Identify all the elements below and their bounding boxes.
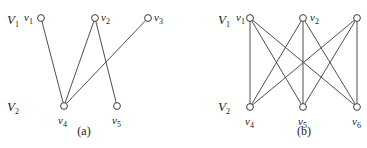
set-label-V2: V2 xyxy=(7,99,19,116)
vertex-v3 xyxy=(145,15,152,22)
vertex-v2 xyxy=(300,15,307,22)
vertex-v5 xyxy=(114,103,121,110)
vertex-v3 xyxy=(354,15,361,22)
vertex-v4 xyxy=(61,103,68,110)
vertex-label-v3: v3 xyxy=(154,11,163,26)
set-label-V1: V1 xyxy=(218,12,230,29)
graph-a: v1v2v3v4v5V1V2(a) xyxy=(7,11,163,138)
vertex-label-v5: v5 xyxy=(112,114,121,129)
vertex-label-v4: v4 xyxy=(58,114,67,129)
caption-b: (b) xyxy=(297,124,311,138)
vertex-label-v2: v2 xyxy=(310,11,319,26)
edge-v1-v4 xyxy=(41,18,64,106)
edges xyxy=(250,18,357,107)
set-label-V1: V1 xyxy=(7,12,19,29)
vertex-v5 xyxy=(300,104,307,111)
vertex-label-v2: v2 xyxy=(101,11,110,26)
bipartite-graphs-figure: v1v2v3v4v5V1V2(a)v1v2v4v5v6V1V2(b) xyxy=(0,0,367,148)
vertex-label-v1: v1 xyxy=(236,11,245,26)
vertex-v1 xyxy=(247,15,254,22)
vertex-label-v4: v4 xyxy=(245,115,254,130)
vertex-label-v6: v6 xyxy=(352,115,361,130)
vertex-v4 xyxy=(247,104,254,111)
vertex-v1 xyxy=(38,15,45,22)
caption-a: (a) xyxy=(77,124,90,138)
edge-v3-v4 xyxy=(64,18,148,106)
edges xyxy=(41,18,148,106)
vertex-label-v1: v1 xyxy=(24,11,33,26)
vertex-v6 xyxy=(354,104,361,111)
set-label-V2: V2 xyxy=(218,99,230,116)
graph-b: v1v2v4v5v6V1V2(b) xyxy=(218,11,361,138)
vertex-v2 xyxy=(92,15,99,22)
edge-v2-v4 xyxy=(64,18,95,106)
